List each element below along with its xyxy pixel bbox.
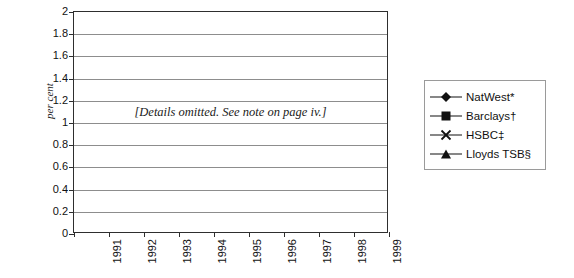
x-axis-tick-label: 1992 <box>146 239 158 278</box>
x-axis-tick-mark <box>109 232 110 237</box>
gridline <box>74 123 387 124</box>
y-axis-tick-label: 1.2 <box>30 94 68 105</box>
y-axis-tick-mark <box>69 12 74 13</box>
x-axis-tick-label: 1999 <box>391 239 403 278</box>
chart-screenshot: per cent 21.81.61.41.210.80.60.40.20 [De… <box>0 0 574 278</box>
x-axis-tick-label: 1997 <box>321 239 333 278</box>
triangle-marker-icon <box>430 147 462 161</box>
y-axis-tick-label: 1.4 <box>30 72 68 83</box>
x-axis-tick-mark <box>389 232 390 237</box>
legend-item-label: HSBC‡ <box>462 129 504 141</box>
y-axis-tick-label: 0.8 <box>30 139 68 150</box>
y-axis-tick-mark <box>69 34 74 35</box>
x-axis-tick-labels: 199119921993199419951996199719981999 <box>73 239 388 278</box>
legend-item[interactable]: NatWest* <box>430 87 538 106</box>
x-axis-tick-label: 1991 <box>111 239 123 278</box>
gridline <box>74 56 387 57</box>
gridline <box>74 212 387 213</box>
gridline <box>74 167 387 168</box>
y-axis-tick-label: 0.2 <box>30 205 68 216</box>
y-axis-tick-mark <box>69 212 74 213</box>
gridline <box>74 190 387 191</box>
y-axis-tick-label: 0.6 <box>30 161 68 172</box>
legend-item-label: Barclays† <box>462 110 517 122</box>
x-axis-tick-mark <box>284 232 285 237</box>
x-axis-tick-label: 1998 <box>356 239 368 278</box>
y-axis-tick-label: 0.4 <box>30 183 68 194</box>
x-axis-tick-mark <box>179 232 180 237</box>
gridline <box>74 34 387 35</box>
y-axis-tick-labels: 21.81.61.41.210.80.60.40.20 <box>30 11 68 233</box>
x-axis-tick-label: 1996 <box>286 239 298 278</box>
y-axis-tick-label: 1.6 <box>30 50 68 61</box>
x-axis-tick-mark <box>214 232 215 237</box>
plot-area: [Details omitted. See note on page iv.] <box>73 11 388 233</box>
legend-item[interactable]: Barclays† <box>430 106 538 125</box>
gridline <box>74 101 387 102</box>
x-axis-tick-mark <box>249 232 250 237</box>
y-axis-tick-label: 0 <box>30 228 68 239</box>
x-axis-tick-mark <box>144 232 145 237</box>
chart-legend: NatWest*Barclays†HSBC‡Lloyds TSB§ <box>424 80 546 170</box>
y-axis-tick-mark <box>69 145 74 146</box>
x-cross-marker-icon <box>430 128 462 142</box>
y-axis-tick-label: 2 <box>30 6 68 17</box>
y-axis-tick-mark <box>69 190 74 191</box>
square-marker-icon <box>430 109 462 123</box>
legend-item-label: NatWest* <box>462 91 514 103</box>
y-axis-tick-mark <box>69 101 74 102</box>
legend-item[interactable]: Lloyds TSB§ <box>430 144 538 163</box>
x-axis-tick-mark <box>354 232 355 237</box>
y-axis-tick-mark <box>69 123 74 124</box>
x-axis-tick-mark <box>74 232 75 237</box>
x-axis-tick-label: 1995 <box>251 239 263 278</box>
gridline <box>74 79 387 80</box>
gridline <box>74 145 387 146</box>
y-axis-tick-label: 1 <box>30 117 68 128</box>
y-axis-tick-mark <box>69 167 74 168</box>
y-axis-tick-mark <box>69 79 74 80</box>
diamond-marker-icon <box>430 90 462 104</box>
legend-item[interactable]: HSBC‡ <box>430 125 538 144</box>
x-axis-tick-label: 1994 <box>216 239 228 278</box>
legend-item-label: Lloyds TSB§ <box>462 148 531 160</box>
x-axis-tick-mark <box>319 232 320 237</box>
y-axis-tick-mark <box>69 56 74 57</box>
x-axis-tick-label: 1993 <box>181 239 193 278</box>
plot-annotation: [Details omitted. See note on page iv.] <box>74 104 387 119</box>
y-axis-tick-label: 1.8 <box>30 28 68 39</box>
